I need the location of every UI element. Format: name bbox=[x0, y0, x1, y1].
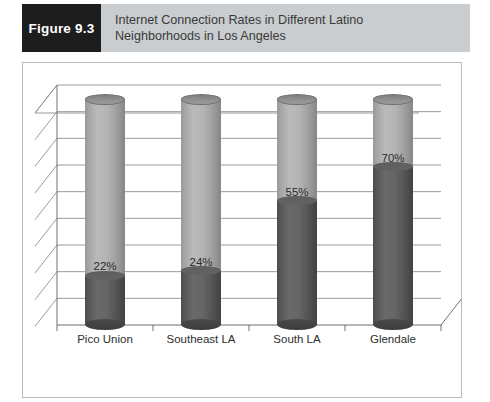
bar-segment-not-online bbox=[85, 99, 125, 275]
plot-area: 22%24%55%70% Pico UnionSoutheast LASouth… bbox=[23, 63, 461, 397]
bar-segment-online bbox=[277, 201, 317, 325]
bar-value-label: 70% bbox=[373, 152, 413, 164]
bar-group: 55% bbox=[277, 99, 317, 325]
cylinder-base-ellipse bbox=[277, 319, 317, 330]
category-label: South LA bbox=[249, 333, 345, 345]
category-label: Glendale bbox=[345, 333, 441, 345]
cylinder-top-ellipse bbox=[181, 94, 221, 105]
cylinder-base-ellipse bbox=[181, 319, 221, 330]
bar-segment-online bbox=[85, 275, 125, 325]
figure-title-line-2: Neighborhoods in Los Angeles bbox=[115, 28, 465, 44]
category-label: Pico Union bbox=[57, 333, 153, 345]
bar-segment-online bbox=[373, 167, 413, 325]
cylinder-top-ellipse bbox=[85, 94, 125, 105]
figure-header-banner: Figure 9.3 Internet Connection Rates in … bbox=[22, 4, 470, 52]
figure-number-box: Figure 9.3 bbox=[22, 4, 101, 52]
figure-number-label: Figure 9.3 bbox=[29, 21, 95, 36]
bar-segment-not-online bbox=[181, 99, 221, 271]
bar-group: 70% bbox=[373, 99, 413, 325]
bars-layer: 22%24%55%70% bbox=[23, 63, 461, 397]
bar-value-label: 22% bbox=[85, 260, 125, 272]
bar-value-label: 55% bbox=[277, 186, 317, 198]
figure-title-line-1: Internet Connection Rates in Different L… bbox=[115, 12, 465, 28]
bar-value-label: 24% bbox=[181, 256, 221, 268]
category-label: Southeast LA bbox=[153, 333, 249, 345]
cylinder-base-ellipse bbox=[373, 319, 413, 330]
figure-title: Internet Connection Rates in Different L… bbox=[115, 12, 465, 44]
bar-group: 22% bbox=[85, 99, 125, 325]
bar-group: 24% bbox=[181, 99, 221, 325]
cylinder-top-ellipse bbox=[373, 94, 413, 105]
cylinder-top-ellipse bbox=[277, 94, 317, 105]
bar-segment-online bbox=[181, 271, 221, 325]
cylinder-base-ellipse bbox=[85, 319, 125, 330]
chart-frame: 22%24%55%70% Pico UnionSoutheast LASouth… bbox=[22, 62, 462, 398]
